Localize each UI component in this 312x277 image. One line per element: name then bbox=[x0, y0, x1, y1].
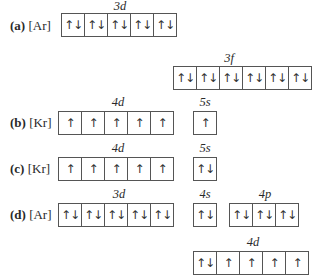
orbital-row-4d: ↑ ↑ ↑ ↑ ↑ bbox=[58, 111, 174, 135]
orbital-box: ↑↓ bbox=[150, 203, 174, 227]
orbital-box: ↑↓ bbox=[193, 203, 217, 227]
orbital-box: ↑ bbox=[127, 111, 151, 135]
orbital-box: ↑ bbox=[239, 251, 263, 275]
orbital-box: ↑↓ bbox=[61, 13, 85, 37]
config-c-label: (c) [Kr] bbox=[10, 162, 50, 176]
orbital-box: ↑ bbox=[81, 111, 105, 135]
subshell-label-5s: 5s bbox=[193, 142, 217, 155]
orbital-box: ↑↓ bbox=[84, 13, 108, 37]
orbital-box: ↑ bbox=[193, 111, 217, 135]
orbital-box: ↑ bbox=[262, 251, 286, 275]
orbital-box: ↑↓ bbox=[107, 13, 131, 37]
orbital-box: ↑ bbox=[104, 111, 128, 135]
orbital-box: ↑ bbox=[216, 251, 240, 275]
config-letter: (a) bbox=[10, 18, 25, 33]
orbital-box: ↑↓ bbox=[104, 203, 128, 227]
orbital-box: ↑↓ bbox=[196, 66, 220, 90]
orbital-box: ↑↓ bbox=[130, 13, 154, 37]
subshell-label-3d: 3d bbox=[107, 188, 131, 201]
orbital-box: ↑↓ bbox=[275, 203, 299, 227]
orbital-row-4p: ↑↓ ↑↓ ↑↓ bbox=[229, 203, 299, 227]
orbital-box: ↑ bbox=[81, 157, 105, 181]
orbital-box: ↑ bbox=[285, 251, 309, 275]
config-b-label: (b) [Kr] bbox=[10, 116, 52, 130]
subshell-label-4d: 4d bbox=[106, 96, 130, 109]
core-notation: [Ar] bbox=[28, 18, 50, 33]
orbital-row-3f: ↑↓ ↑↓ ↑↓ ↑↓ ↑↓ ↑↓ ↑↓ bbox=[173, 66, 312, 90]
orbital-box: ↑↓ bbox=[81, 203, 105, 227]
orbital-row-3d: ↑↓ ↑↓ ↑↓ ↑↓ ↑↓ bbox=[61, 13, 177, 37]
orbital-box: ↑↓ bbox=[193, 157, 217, 181]
config-letter: (d) bbox=[10, 207, 26, 222]
subshell-label-3d: 3d bbox=[108, 0, 132, 13]
orbital-box: ↑↓ bbox=[229, 203, 253, 227]
subshell-label-4d: 4d bbox=[106, 142, 130, 155]
orbital-row-4d: ↑↓ ↑ ↑ ↑ ↑ bbox=[193, 251, 309, 275]
orbital-box: ↑↓ bbox=[193, 251, 217, 275]
orbital-box: ↑↓ bbox=[153, 13, 177, 37]
subshell-label-5s: 5s bbox=[193, 96, 217, 109]
orbital-box: ↑↓ bbox=[127, 203, 151, 227]
orbital-row-4s: ↑↓ bbox=[193, 203, 217, 227]
orbital-box: ↑↓ bbox=[252, 203, 276, 227]
orbital-box: ↑ bbox=[104, 157, 128, 181]
orbital-box: ↑ bbox=[127, 157, 151, 181]
orbital-row-4d: ↑ ↑ ↑ ↑ ↑ bbox=[58, 157, 174, 181]
orbital-box: ↑↓ bbox=[288, 66, 312, 90]
core-notation: [Kr] bbox=[28, 161, 50, 176]
config-letter: (c) bbox=[10, 161, 24, 176]
orbital-box: ↑ bbox=[58, 111, 82, 135]
orbital-box: ↑ bbox=[150, 157, 174, 181]
orbital-box: ↑ bbox=[58, 157, 82, 181]
subshell-label-3f: 3f bbox=[217, 52, 241, 65]
config-a-label: (a) [Ar] bbox=[10, 19, 51, 33]
orbital-box: ↑↓ bbox=[311, 66, 312, 90]
orbital-box: ↑↓ bbox=[265, 66, 289, 90]
orbital-row-3d: ↑↓ ↑↓ ↑↓ ↑↓ ↑↓ bbox=[58, 203, 174, 227]
orbital-box: ↑ bbox=[150, 111, 174, 135]
config-letter: (b) bbox=[10, 115, 26, 130]
config-d-label: (d) [Ar] bbox=[10, 208, 52, 222]
orbital-row-5s: ↑ bbox=[193, 111, 217, 135]
core-notation: [Kr] bbox=[29, 115, 51, 130]
orbital-box: ↑↓ bbox=[58, 203, 82, 227]
orbital-row-5s: ↑↓ bbox=[193, 157, 217, 181]
subshell-label-4p: 4p bbox=[253, 188, 277, 201]
subshell-label-4d: 4d bbox=[241, 236, 265, 249]
orbital-box: ↑↓ bbox=[219, 66, 243, 90]
subshell-label-4s: 4s bbox=[193, 188, 217, 201]
orbital-box: ↑↓ bbox=[242, 66, 266, 90]
orbital-box: ↑↓ bbox=[173, 66, 197, 90]
core-notation: [Ar] bbox=[29, 207, 51, 222]
